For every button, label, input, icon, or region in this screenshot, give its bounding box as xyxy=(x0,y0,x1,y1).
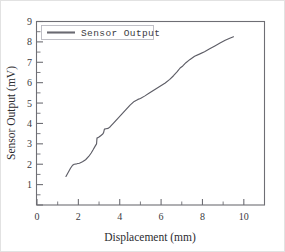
y-tick-label: 6 xyxy=(27,77,32,88)
line-chart-canvas: 0246810123456789 Sensor Output Displacem… xyxy=(1,1,285,252)
x-tick-label: 8 xyxy=(200,211,205,222)
y-axis-title: Sensor Output (mV) xyxy=(5,66,18,160)
legend-entry-label: Sensor Output xyxy=(81,28,160,39)
y-tick-label: 9 xyxy=(27,16,32,27)
y-tick-label: 4 xyxy=(27,118,32,129)
y-tick-label: 2 xyxy=(27,159,32,170)
y-tick-label: 8 xyxy=(27,36,32,47)
x-tick-label: 4 xyxy=(117,211,122,222)
y-tick-label: 5 xyxy=(27,98,32,109)
y-tick-label: 1 xyxy=(27,179,32,190)
x-tick-label: 0 xyxy=(35,211,40,222)
x-tick-label: 6 xyxy=(159,211,164,222)
chart-figure: 0246810123456789 Sensor Output Displacem… xyxy=(0,0,285,252)
plot-frame xyxy=(37,22,265,206)
y-tick-label: 7 xyxy=(27,57,32,68)
x-tick-label: 10 xyxy=(239,211,249,222)
plot-area-border xyxy=(37,22,265,206)
y-tick-label: 3 xyxy=(27,138,32,149)
chart-legend: Sensor Output xyxy=(42,26,161,40)
x-tick-label: 2 xyxy=(76,211,81,222)
x-axis-title: Displacement (mm) xyxy=(104,231,196,244)
